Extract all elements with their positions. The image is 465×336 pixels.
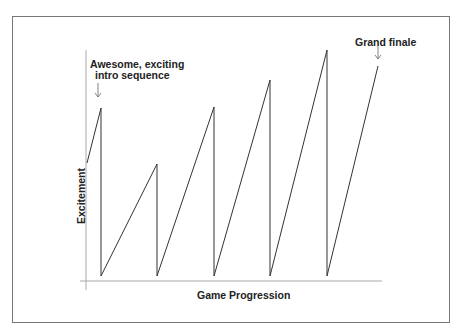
x-axis-label: Game Progression xyxy=(197,289,290,301)
y-axis-label: Excitement xyxy=(75,166,87,226)
annotation-intro: Awesome, exciting intro sequence xyxy=(90,59,184,81)
arrow-down-icon xyxy=(95,83,101,97)
annotation-finale: Grand finale xyxy=(355,36,416,48)
sawtooth-chart xyxy=(0,0,465,336)
excitement-line xyxy=(87,50,378,276)
annotation-intro-line2: intro sequence xyxy=(90,70,184,81)
